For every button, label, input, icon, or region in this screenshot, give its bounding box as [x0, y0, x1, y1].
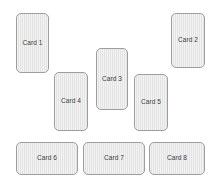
card-3[interactable]: Card 3	[96, 48, 128, 110]
card-layout-canvas: Card 1 Card 2 Card 3 Card 4 Card 5 Card …	[0, 0, 218, 185]
card-7-label: Card 7	[104, 155, 124, 162]
card-4[interactable]: Card 4	[54, 72, 88, 131]
card-1[interactable]: Card 1	[16, 13, 49, 73]
card-5-label: Card 5	[141, 99, 161, 106]
card-2-label: Card 2	[178, 37, 198, 44]
card-5[interactable]: Card 5	[134, 74, 168, 131]
card-7[interactable]: Card 7	[83, 142, 145, 175]
card-3-label: Card 3	[102, 76, 122, 83]
card-8-label: Card 8	[167, 155, 187, 162]
card-4-label: Card 4	[61, 98, 81, 105]
card-8[interactable]: Card 8	[149, 142, 205, 175]
card-6-label: Card 6	[37, 155, 57, 162]
card-6[interactable]: Card 6	[16, 142, 78, 175]
card-2[interactable]: Card 2	[171, 13, 205, 68]
card-1-label: Card 1	[22, 40, 42, 47]
